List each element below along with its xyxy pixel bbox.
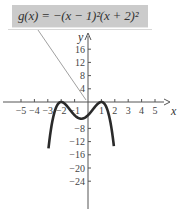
- x-axis-arrow-icon: [164, 99, 170, 105]
- x-tick-label: 3: [126, 105, 131, 116]
- y-tick-label: −24: [69, 176, 85, 187]
- y-tick-label: 12: [75, 57, 85, 68]
- y-axis-label: y: [77, 30, 84, 44]
- y-tick-label: −12: [69, 136, 85, 147]
- x-tick-label: 1: [99, 105, 104, 116]
- y-tick-label: 16: [75, 44, 85, 55]
- y-tick-label: −8: [74, 123, 85, 134]
- x-tick-label: 2: [112, 105, 117, 116]
- x-tick-label: −4: [29, 105, 40, 116]
- function-plot: xy−5−4−3−2−112345161284−8−12−16−20−24: [0, 0, 182, 211]
- x-tick-label: 4: [139, 105, 144, 116]
- x-axis-label: x: [170, 104, 177, 118]
- x-tick-label: −3: [42, 105, 53, 116]
- y-tick-label: 4: [80, 83, 85, 94]
- y-tick-label: −16: [69, 149, 85, 160]
- y-tick-label: −20: [69, 163, 85, 174]
- x-tick-label: 5: [153, 105, 158, 116]
- x-tick-label: −5: [16, 105, 27, 116]
- y-tick-label: 8: [80, 70, 85, 81]
